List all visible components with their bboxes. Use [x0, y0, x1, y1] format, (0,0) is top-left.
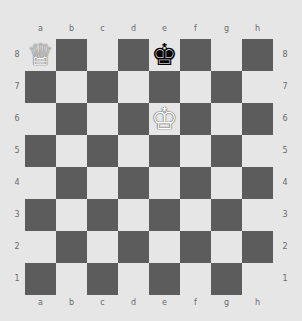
square-e6[interactable]: ♔ [149, 103, 180, 135]
square-e3[interactable] [149, 199, 180, 231]
rank-label-1: 1 [279, 274, 291, 283]
black-king-icon[interactable]: ♚ [151, 40, 178, 70]
square-e1[interactable] [149, 263, 180, 295]
square-b7[interactable] [56, 71, 87, 103]
square-f2[interactable] [180, 231, 211, 263]
square-c7[interactable] [87, 71, 118, 103]
square-f1[interactable] [180, 263, 211, 295]
square-a5[interactable] [25, 135, 56, 167]
square-h1[interactable] [242, 263, 273, 295]
rank-label-2: 2 [279, 242, 291, 251]
file-label-e: e [149, 298, 180, 307]
file-label-h: h [242, 24, 273, 33]
square-h8[interactable] [242, 39, 273, 71]
square-g7[interactable] [211, 71, 242, 103]
square-h5[interactable] [242, 135, 273, 167]
file-label-e: e [149, 24, 180, 33]
square-b1[interactable] [56, 263, 87, 295]
square-e2[interactable] [149, 231, 180, 263]
square-e4[interactable] [149, 167, 180, 199]
square-a7[interactable] [25, 71, 56, 103]
square-c8[interactable] [87, 39, 118, 71]
square-a3[interactable] [25, 199, 56, 231]
rank-label-6: 6 [11, 114, 23, 123]
file-label-b: b [56, 24, 87, 33]
square-b3[interactable] [56, 199, 87, 231]
square-a2[interactable] [25, 231, 56, 263]
rank-label-4: 4 [11, 178, 23, 187]
square-g1[interactable] [211, 263, 242, 295]
square-g3[interactable] [211, 199, 242, 231]
square-g5[interactable] [211, 135, 242, 167]
rank-label-5: 5 [11, 146, 23, 155]
rank-label-5: 5 [279, 146, 291, 155]
square-c6[interactable] [87, 103, 118, 135]
square-h7[interactable] [242, 71, 273, 103]
file-label-d: d [118, 298, 149, 307]
square-h4[interactable] [242, 167, 273, 199]
file-label-h: h [242, 298, 273, 307]
square-d3[interactable] [118, 199, 149, 231]
square-h6[interactable] [242, 103, 273, 135]
rank-label-8: 8 [279, 50, 291, 59]
file-label-a: a [25, 298, 56, 307]
square-d2[interactable] [118, 231, 149, 263]
square-b4[interactable] [56, 167, 87, 199]
square-f4[interactable] [180, 167, 211, 199]
file-label-g: g [211, 24, 242, 33]
square-f7[interactable] [180, 71, 211, 103]
square-f3[interactable] [180, 199, 211, 231]
white-king-icon[interactable]: ♔ [151, 104, 178, 134]
square-a8[interactable]: ♕ [25, 39, 56, 71]
square-c5[interactable] [87, 135, 118, 167]
square-b8[interactable] [56, 39, 87, 71]
square-e7[interactable] [149, 71, 180, 103]
square-a6[interactable] [25, 103, 56, 135]
square-g4[interactable] [211, 167, 242, 199]
square-g6[interactable] [211, 103, 242, 135]
file-label-c: c [87, 298, 118, 307]
square-d4[interactable] [118, 167, 149, 199]
square-c3[interactable] [87, 199, 118, 231]
file-label-f: f [180, 24, 211, 33]
square-d6[interactable] [118, 103, 149, 135]
rank-label-7: 7 [11, 82, 23, 91]
rank-label-4: 4 [279, 178, 291, 187]
square-a4[interactable] [25, 167, 56, 199]
rank-label-1: 1 [11, 274, 23, 283]
square-f8[interactable] [180, 39, 211, 71]
square-d7[interactable] [118, 71, 149, 103]
file-label-f: f [180, 298, 211, 307]
square-c4[interactable] [87, 167, 118, 199]
square-c1[interactable] [87, 263, 118, 295]
white-queen-icon[interactable]: ♕ [27, 40, 54, 70]
file-label-g: g [211, 298, 242, 307]
rank-label-3: 3 [279, 210, 291, 219]
rank-label-6: 6 [279, 114, 291, 123]
file-label-c: c [87, 24, 118, 33]
square-d5[interactable] [118, 135, 149, 167]
file-label-b: b [56, 298, 87, 307]
square-d8[interactable] [118, 39, 149, 71]
square-b6[interactable] [56, 103, 87, 135]
file-label-a: a [25, 24, 56, 33]
square-d1[interactable] [118, 263, 149, 295]
square-g2[interactable] [211, 231, 242, 263]
square-f6[interactable] [180, 103, 211, 135]
rank-label-7: 7 [279, 82, 291, 91]
file-label-d: d [118, 24, 149, 33]
rank-label-2: 2 [11, 242, 23, 251]
chess-board: ♕♚♔ [25, 39, 273, 295]
rank-label-8: 8 [11, 50, 23, 59]
square-e8[interactable]: ♚ [149, 39, 180, 71]
square-b2[interactable] [56, 231, 87, 263]
square-a1[interactable] [25, 263, 56, 295]
square-h2[interactable] [242, 231, 273, 263]
square-h3[interactable] [242, 199, 273, 231]
square-e5[interactable] [149, 135, 180, 167]
rank-label-3: 3 [11, 210, 23, 219]
square-b5[interactable] [56, 135, 87, 167]
square-f5[interactable] [180, 135, 211, 167]
square-c2[interactable] [87, 231, 118, 263]
square-g8[interactable] [211, 39, 242, 71]
